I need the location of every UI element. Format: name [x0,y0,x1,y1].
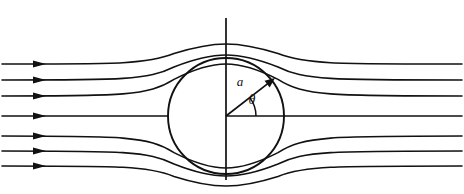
flow-direction-arrow-icon [33,162,46,169]
flow-diagram-figure: a θ [0,0,464,194]
flow-direction-arrow-icon [33,147,46,154]
flow-direction-arrow-icon [33,112,46,119]
flow-direction-arrow-icon [33,60,46,67]
streamline-path [2,151,462,176]
radius-vector-line [226,83,269,116]
inlet-arrowheads-group [33,60,46,169]
streamlines-group [2,44,462,186]
angle-label: θ [249,92,256,107]
flow-field-canvas: a θ [0,0,464,194]
radius-label: a [237,74,244,89]
flow-direction-arrow-icon [33,76,46,83]
flow-direction-arrow-icon [33,92,46,99]
streamline-path [2,44,462,64]
flow-direction-arrow-icon [33,132,46,139]
